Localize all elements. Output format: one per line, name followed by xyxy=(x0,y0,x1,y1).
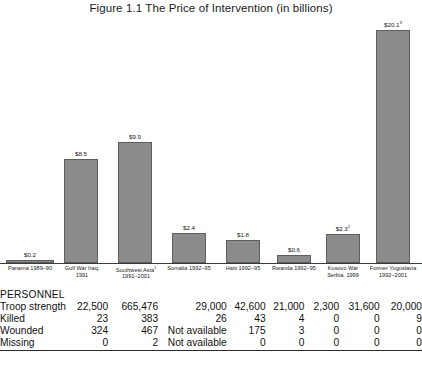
footnote-marker: 3 xyxy=(400,20,402,25)
bar-kosovo-war[interactable] xyxy=(326,234,360,263)
cell-killed-gulf-war-iraq: 383 xyxy=(108,313,158,325)
footnote-marker: 1 xyxy=(154,265,156,270)
category-label-line1: Kosovo War xyxy=(315,265,371,272)
bar-group-haiti: $1.8 xyxy=(226,16,260,263)
cell-troop-strength-kosovo-war: 31,600 xyxy=(339,301,380,313)
cell-troop-strength-gulf-war-iraq: 665,476 xyxy=(108,301,158,313)
table-bottom-rule xyxy=(0,350,422,351)
category-label-line1: Haiti 1992–95 xyxy=(216,265,270,272)
bar-value-label: $9.9 xyxy=(129,134,141,140)
category-label-line2: Serbia, 1999 xyxy=(315,272,371,279)
cell-missing-southwest-asia: Not available xyxy=(158,337,227,349)
bar-group-southwest-asia: $9.9 xyxy=(118,16,152,263)
bar-southwest-asia[interactable] xyxy=(118,142,152,263)
row-label-missing: Missing xyxy=(0,337,66,349)
bar-former-yugoslavia[interactable] xyxy=(376,30,410,263)
cell-wounded-rwanda: 0 xyxy=(304,325,339,337)
row-label-killed: Killed xyxy=(0,313,66,325)
cell-wounded-gulf-war-iraq: 467 xyxy=(108,325,158,337)
bar-value-label: $2.32 xyxy=(336,225,351,232)
cell-killed-panama: 23 xyxy=(66,313,108,325)
category-label-former-yugoslavia: Former Yugoslavia 1992–2001 xyxy=(364,265,422,278)
category-label-kosovo-war: Kosovo War Serbia, 1999 xyxy=(315,265,371,278)
bar-value-label: $20.13 xyxy=(384,21,402,28)
category-label-line2: 1992–2001 xyxy=(364,272,422,279)
bar-group-somalia: $2.4 xyxy=(172,16,206,263)
table-row: Troop strength 22,500 665,476 29,000 42,… xyxy=(0,301,422,313)
cell-killed-haiti: 4 xyxy=(266,313,305,325)
category-label-southwest-asia: Southwest Asia1 1991–2001 xyxy=(106,265,166,280)
cell-troop-strength-panama: 22,500 xyxy=(66,301,108,313)
category-label-line2: 1991 xyxy=(54,272,110,279)
cell-killed-former-yugoslavia: 9 xyxy=(380,313,422,325)
cell-killed-rwanda: 0 xyxy=(304,313,339,325)
cell-wounded-southwest-asia: Not available xyxy=(158,325,227,337)
bar-haiti[interactable] xyxy=(226,240,260,263)
table-section-label: PERSONNEL xyxy=(0,289,422,301)
cell-missing-former-yugoslavia: 0 xyxy=(380,337,422,349)
bar-gulf-war-iraq[interactable] xyxy=(64,159,98,263)
cell-troop-strength-former-yugoslavia: 20,000 xyxy=(380,301,422,313)
cell-troop-strength-somalia: 42,600 xyxy=(227,301,266,313)
category-label-haiti: Haiti 1992–95 xyxy=(216,265,270,272)
bar-value-label: $1.8 xyxy=(237,232,249,238)
row-label-troop-strength: Troop strength xyxy=(0,301,66,313)
figure-title: Figure 1.1 The Price of Intervention (in… xyxy=(0,2,422,14)
bar-group-panama: $0.2 xyxy=(6,16,54,263)
category-label-line1: Gulf War Iraq, xyxy=(54,265,110,272)
cell-missing-somalia: 0 xyxy=(227,337,266,349)
chart-baseline xyxy=(0,263,422,264)
bar-group-rwanda: $0.6 xyxy=(277,16,311,263)
cell-troop-strength-rwanda: 2,300 xyxy=(304,301,339,313)
table-section-header-row: PERSONNEL xyxy=(0,289,422,301)
bar-group-kosovo-war: $2.32 xyxy=(326,16,360,263)
cell-killed-kosovo-war: 0 xyxy=(339,313,380,325)
cell-missing-gulf-war-iraq: 2 xyxy=(108,337,158,349)
table-row: Killed 23 383 26 43 4 0 0 9 xyxy=(0,313,422,325)
footnote-marker: 2 xyxy=(348,224,350,229)
bar-value-label: $0.2 xyxy=(24,252,36,258)
bar-group-former-yugoslavia: $20.13 xyxy=(376,16,410,263)
category-axis-labels: Panama 1989–90 Gulf War Iraq, 1991 South… xyxy=(0,265,422,287)
personnel-table-wrapper: PERSONNEL Troop strength 22,500 665,476 … xyxy=(0,289,422,349)
category-label-rwanda: Rwanda 1992–95 xyxy=(266,265,322,272)
category-label-line1: Panama 1989–90 xyxy=(0,265,60,272)
category-label-line2: 1991–2001 xyxy=(106,273,166,280)
bar-rwanda[interactable] xyxy=(277,255,311,263)
category-label-panama: Panama 1989–90 xyxy=(0,265,60,272)
cell-missing-kosovo-war: 0 xyxy=(339,337,380,349)
cell-killed-somalia: 43 xyxy=(227,313,266,325)
cell-missing-panama: 0 xyxy=(66,337,108,349)
category-label-gulf-war-iraq: Gulf War Iraq, 1991 xyxy=(54,265,110,278)
bar-value-label: $2.4 xyxy=(183,225,195,231)
cell-missing-rwanda: 0 xyxy=(304,337,339,349)
cell-wounded-panama: 324 xyxy=(66,325,108,337)
category-label-somalia: Somalia 1992–95 xyxy=(160,265,218,272)
table-row: Missing 0 2 Not available 0 0 0 0 0 xyxy=(0,337,422,349)
cell-wounded-kosovo-war: 0 xyxy=(339,325,380,337)
category-label-line1: Southwest Asia1 xyxy=(106,265,166,273)
cell-missing-haiti: 0 xyxy=(266,337,305,349)
cell-wounded-haiti: 3 xyxy=(266,325,305,337)
bar-group-gulf-war-iraq: $8.5 xyxy=(64,16,98,263)
category-label-line1: Rwanda 1992–95 xyxy=(266,265,322,272)
personnel-table: PERSONNEL Troop strength 22,500 665,476 … xyxy=(0,289,422,349)
cell-troop-strength-haiti: 21,000 xyxy=(266,301,305,313)
table-row: Wounded 324 467 Not available 175 3 0 0 … xyxy=(0,325,422,337)
cell-killed-southwest-asia: 26 xyxy=(158,313,227,325)
cell-wounded-former-yugoslavia: 0 xyxy=(380,325,422,337)
cell-wounded-somalia: 175 xyxy=(227,325,266,337)
cell-troop-strength-southwest-asia: 29,000 xyxy=(158,301,227,313)
bar-value-label: $8.5 xyxy=(75,151,87,157)
bar-panama[interactable] xyxy=(6,260,54,263)
category-label-line1: Somalia 1992–95 xyxy=(160,265,218,272)
category-label-line1: Former Yugoslavia xyxy=(364,265,422,272)
bar-chart-plot-area: $0.2 $8.5 $9.9 $2.4 $1.8 $0.6 $2.32 xyxy=(0,16,422,264)
bar-somalia[interactable] xyxy=(172,233,206,263)
row-label-wounded: Wounded xyxy=(0,325,66,337)
bar-value-label: $0.6 xyxy=(288,247,300,253)
figure-container: Figure 1.1 The Price of Intervention (in… xyxy=(0,0,422,366)
